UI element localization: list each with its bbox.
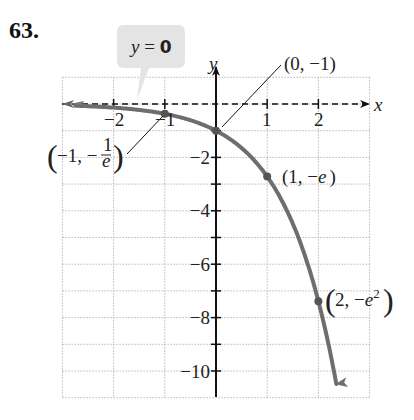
- svg-text:(1, −e): (1, −e): [282, 166, 336, 188]
- leader-line-0-neg1: [222, 65, 281, 127]
- y-tick-label: −6: [190, 254, 210, 275]
- point-label-2-neg-e2: ( 2, −e2 ): [325, 282, 394, 318]
- svg-text:2, −e2: 2, −e2: [335, 286, 380, 310]
- data-points: [161, 110, 323, 305]
- data-point: [314, 297, 322, 305]
- graph: y = 0 x y −2 −1 1 2 −2 −4 −6 −8 −10 (0, …: [0, 0, 414, 420]
- x-tick-label: −1: [155, 109, 175, 130]
- point-label-neg1-neg-inv-e: ( −1, − 1 e ): [47, 134, 124, 174]
- svg-text:): ): [113, 138, 124, 174]
- y-tick-label: −4: [190, 200, 211, 221]
- svg-text:e: e: [102, 150, 110, 171]
- asymptote-callout: y = 0: [117, 25, 185, 100]
- data-point: [212, 127, 220, 135]
- svg-text:−1, −: −1, −: [57, 145, 97, 166]
- x-tick-label: 1: [262, 109, 272, 130]
- callout-label: y = 0: [129, 36, 172, 57]
- svg-text:): ): [383, 282, 394, 318]
- y-axis-label: y: [207, 53, 218, 74]
- point-label-1-neg-e: (1, −e): [282, 166, 336, 188]
- y-tick-label: −2: [190, 147, 210, 168]
- data-point: [263, 173, 271, 181]
- x-axis-label: x: [373, 94, 383, 115]
- x-tick-label: 2: [314, 109, 324, 130]
- y-tick-label: −8: [190, 307, 210, 328]
- y-tick-label: −10: [180, 361, 210, 382]
- point-label-0-neg1: (0, −1): [284, 53, 336, 75]
- x-tick-label: −2: [104, 109, 124, 130]
